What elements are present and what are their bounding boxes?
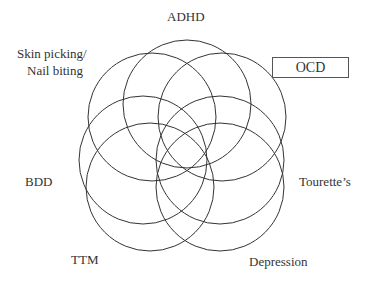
label-nail-biting: Nail biting — [27, 62, 83, 79]
label-ocd-box: OCD — [272, 57, 349, 78]
label-bdd: BDD — [25, 173, 52, 190]
circle-4 — [86, 123, 214, 251]
label-ttm: TTM — [71, 251, 98, 268]
circle-5 — [79, 96, 207, 224]
label-tourettes: Tourette’s — [299, 173, 351, 190]
circle-3 — [156, 123, 284, 251]
label-adhd: ADHD — [167, 8, 205, 25]
circles-layer — [0, 0, 376, 282]
circle-6 — [88, 53, 216, 181]
circle-0 — [123, 40, 251, 168]
label-depression: Depression — [249, 253, 308, 270]
label-skin-picking: Skin picking/ — [17, 45, 87, 62]
